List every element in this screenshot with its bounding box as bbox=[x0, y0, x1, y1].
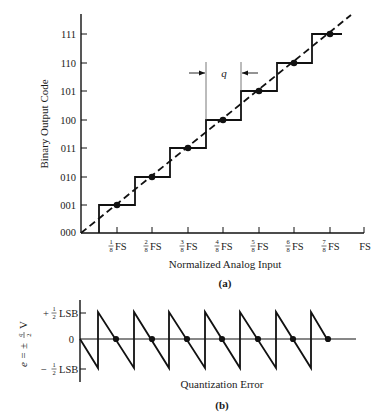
x-ticks bbox=[117, 227, 364, 233]
svg-text:8: 8 bbox=[251, 246, 254, 253]
svg-text:−: − bbox=[41, 364, 47, 375]
svg-text:2: 2 bbox=[25, 333, 32, 336]
y-tick-100: 100 bbox=[60, 115, 76, 126]
svg-text:LSB: LSB bbox=[59, 308, 78, 319]
svg-text:FS: FS bbox=[186, 241, 198, 252]
svg-text:q: q bbox=[16, 333, 23, 337]
svg-text:8: 8 bbox=[180, 246, 183, 253]
svg-text:8: 8 bbox=[144, 246, 147, 253]
panel-a-label: (a) bbox=[219, 277, 232, 290]
svg-text:V: V bbox=[17, 321, 29, 329]
x-tick-4-8: 4 8 FS bbox=[215, 238, 233, 253]
y-tick-111: 111 bbox=[61, 29, 76, 40]
svg-text:FS: FS bbox=[221, 241, 233, 252]
x-tick-7-8: 7 8 FS bbox=[322, 238, 340, 253]
svg-text:5: 5 bbox=[251, 238, 254, 245]
y-axis-title: Binary Output Code bbox=[38, 79, 50, 168]
y-ticks bbox=[81, 34, 87, 205]
adc-quantization-figure: 000 001 010 011 100 101 110 111 Binary O… bbox=[0, 0, 387, 420]
svg-text:FS: FS bbox=[115, 241, 127, 252]
x-tick-1-8: 1 8 FS bbox=[109, 238, 127, 253]
q-label: q bbox=[221, 67, 227, 79]
quantized-staircase bbox=[99, 34, 342, 233]
svg-text:1: 1 bbox=[52, 361, 55, 368]
svg-text:8: 8 bbox=[109, 246, 112, 253]
x-axis-title: Normalized Analog Input bbox=[169, 258, 281, 270]
y-tick-labels: 000 001 010 011 100 101 110 111 bbox=[60, 29, 76, 238]
svg-text:FS: FS bbox=[292, 241, 304, 252]
error-x-axis-title: Quantization Error bbox=[181, 378, 264, 390]
arrow-left-icon bbox=[242, 71, 248, 76]
y-tick-010: 010 bbox=[60, 172, 76, 183]
panel-a: 000 001 010 011 100 101 110 111 Binary O… bbox=[38, 14, 371, 290]
svg-text:7: 7 bbox=[322, 238, 326, 245]
svg-text:FS: FS bbox=[150, 241, 162, 252]
svg-text:FS: FS bbox=[257, 241, 269, 252]
y-tick-110: 110 bbox=[61, 58, 76, 69]
svg-text:1: 1 bbox=[52, 305, 55, 312]
panel-b: + 1 2 LSB 0 − 1 2 LSB e = ± q 2 V bbox=[16, 300, 356, 412]
x-tick-3-8: 3 8 FS bbox=[180, 238, 198, 253]
svg-text:8: 8 bbox=[215, 246, 218, 253]
y-tick-011: 011 bbox=[61, 143, 76, 154]
svg-text:2: 2 bbox=[52, 369, 55, 376]
svg-text:2: 2 bbox=[52, 313, 55, 320]
x-tick-fs: FS bbox=[359, 241, 371, 252]
error-y-axis-title: e = ± q 2 V bbox=[16, 321, 32, 367]
x-tick-6-8: 6 8 FS bbox=[286, 238, 304, 253]
svg-text:LSB: LSB bbox=[59, 364, 78, 375]
svg-text:1: 1 bbox=[109, 238, 112, 245]
code-center-markers bbox=[114, 31, 334, 209]
x-tick-2-8: 2 8 FS bbox=[144, 238, 162, 253]
svg-text:e = ±: e = ± bbox=[17, 343, 29, 367]
ideal-transfer-line bbox=[81, 15, 351, 233]
svg-text:8: 8 bbox=[286, 246, 289, 253]
svg-text:+: + bbox=[43, 308, 49, 319]
svg-text:4: 4 bbox=[215, 238, 219, 245]
y-tick-000: 000 bbox=[60, 227, 76, 238]
svg-text:3: 3 bbox=[180, 238, 183, 245]
svg-text:FS: FS bbox=[328, 241, 340, 252]
panel-b-label: (b) bbox=[215, 399, 229, 412]
arrow-right-icon bbox=[199, 71, 205, 76]
svg-text:8: 8 bbox=[322, 246, 325, 253]
error-tick-zero: 0 bbox=[69, 334, 74, 345]
x-tick-5-8: 5 8 FS bbox=[251, 238, 269, 253]
error-tick-minus-half: − 1 2 LSB bbox=[41, 361, 78, 376]
y-tick-001: 001 bbox=[60, 200, 76, 211]
error-tick-plus-half: + 1 2 LSB bbox=[43, 305, 78, 320]
y-tick-101: 101 bbox=[60, 86, 76, 97]
svg-text:2: 2 bbox=[144, 238, 147, 245]
x-tick-labels: 1 8 FS 2 8 FS 3 8 FS 4 8 FS bbox=[109, 238, 371, 253]
svg-text:6: 6 bbox=[286, 238, 290, 245]
